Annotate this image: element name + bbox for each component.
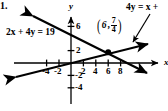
graph-figure: 1.: [0, 0, 168, 111]
point-y-fraction: 7 4: [111, 17, 117, 33]
y-tick-label-2: 2: [76, 46, 81, 55]
fraction-denominator: 4: [111, 25, 117, 34]
y-tick-label-6: 6: [76, 22, 81, 31]
x-tick-label-6: 6: [106, 67, 111, 76]
equation-label-right: 4y = x +: [126, 3, 158, 13]
equation-label-left: 2x + 4y = 19: [6, 28, 55, 38]
paren-open: (: [97, 17, 101, 34]
y-tick-label--4: -4: [75, 83, 83, 92]
x-axis-label: x: [164, 58, 168, 67]
x-tick-label--2: -2: [54, 67, 62, 76]
line-2x-plus-4y-equals-19: [33, 16, 147, 73]
equation-pointer-arrow: [133, 14, 150, 42]
intersection-point-marker: [105, 49, 111, 55]
coordinate-plane: [0, 0, 168, 111]
fraction-numerator: 7: [111, 17, 117, 25]
x-tick-label-8: 8: [118, 67, 123, 76]
intersection-point-label: ( 6 , 7 4 ): [96, 17, 122, 34]
paren-close: ): [118, 17, 122, 34]
y-tick-label--2: -2: [75, 71, 83, 80]
x-tick-label-4: 4: [93, 67, 98, 76]
y-axis: [68, 17, 75, 104]
y-axis-label: y: [69, 2, 73, 11]
x-tick-label--4: -4: [42, 67, 50, 76]
